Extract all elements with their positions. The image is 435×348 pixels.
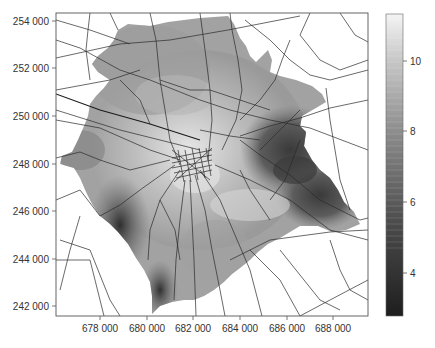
colorbar-tick-label: 8 — [410, 126, 416, 137]
y-tick-label: 244 000 — [13, 254, 50, 265]
x-tick-label: 688 000 — [315, 323, 352, 334]
y-tick-label: 250 000 — [13, 111, 50, 122]
colorbar-tick-label: 10 — [410, 56, 422, 67]
surface-raster — [55, 13, 368, 320]
x-tick-label: 682 000 — [175, 323, 212, 334]
x-tick-label: 684 000 — [222, 323, 259, 334]
map-figure: 254 000 252 000 250 000 248 000 246 000 … — [0, 0, 435, 348]
y-tick-label: 242 000 — [13, 301, 50, 312]
colorbar-tick-label: 6 — [410, 197, 416, 208]
colorbar: 10 8 6 4 — [386, 14, 422, 316]
x-tick-label: 686 000 — [269, 323, 306, 334]
x-axis: 678 000 680 000 682 000 684 000 686 000 … — [82, 316, 352, 334]
y-tick-label: 254 000 — [13, 16, 50, 27]
y-tick-label: 248 000 — [13, 159, 50, 170]
colorbar-gradient — [386, 14, 403, 316]
y-tick-label: 246 000 — [13, 206, 50, 217]
y-tick-label: 252 000 — [13, 63, 50, 74]
colorbar-tick-label: 4 — [410, 268, 416, 279]
y-axis: 254 000 252 000 250 000 248 000 246 000 … — [13, 16, 56, 312]
x-tick-label: 680 000 — [129, 323, 166, 334]
x-tick-label: 678 000 — [82, 323, 119, 334]
